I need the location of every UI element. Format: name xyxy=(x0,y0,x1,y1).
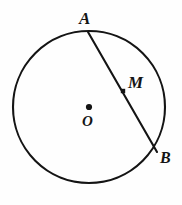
point-M-marker xyxy=(121,89,125,93)
label-point-B: B xyxy=(160,150,171,166)
geometry-figure: A M B O xyxy=(0,0,182,205)
label-point-M: M xyxy=(128,74,143,91)
label-point-A: A xyxy=(79,10,90,27)
geometry-canvas xyxy=(0,0,182,205)
center-point-O-marker xyxy=(86,104,92,110)
label-point-O: O xyxy=(82,114,93,129)
